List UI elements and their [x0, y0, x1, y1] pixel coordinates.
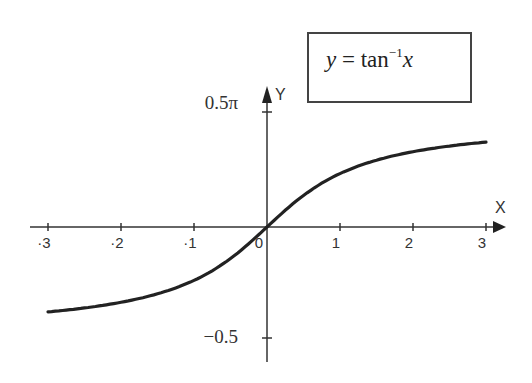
y-axis-label: Y	[275, 86, 286, 103]
legend-x: x	[403, 47, 413, 72]
legend-y: y	[326, 47, 336, 72]
x-axis-arrow-icon	[493, 221, 506, 233]
x-axis-label: X	[495, 199, 506, 216]
x-tick-label: ·3	[37, 234, 50, 251]
y-ticks: 0.5π−0.5	[204, 92, 272, 347]
legend-exponent: −1	[389, 45, 403, 60]
y-tick-label: −0.5	[204, 326, 238, 347]
x-tick-label: ·1	[183, 234, 196, 251]
legend-equals: =	[336, 47, 360, 72]
legend-func: tan	[361, 47, 389, 72]
x-tick-label: 1	[332, 234, 340, 251]
y-axis-arrow-icon	[262, 86, 272, 103]
legend-box: y = tan−1x	[307, 32, 472, 103]
y-tick-label: 0.5π	[205, 92, 239, 113]
x-tick-label: 3	[478, 234, 486, 251]
x-tick-label: ·2	[110, 234, 123, 251]
legend-equation: y = tan−1x	[326, 45, 413, 73]
x-tick-label: 2	[405, 234, 413, 251]
